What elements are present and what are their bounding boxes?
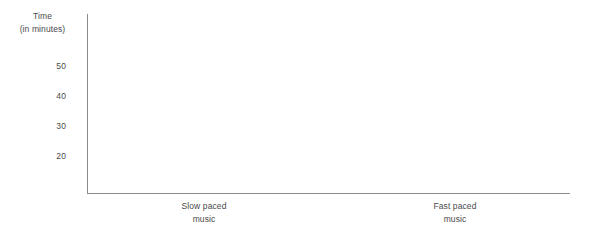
y-tick-label-50: 50 [0, 61, 66, 71]
x-category-label-fast-line-2: music [385, 213, 525, 226]
x-category-label-slow-paced-music: Slow paced music [134, 200, 274, 226]
x-category-label-slow-line-2: music [134, 213, 274, 226]
y-axis-line [87, 14, 88, 194]
x-category-label-fast-paced-music: Fast paced music [385, 200, 525, 226]
y-tick-label-30: 30 [0, 121, 66, 131]
x-category-label-slow-line-1: Slow paced [182, 201, 227, 211]
plot-area [88, 14, 570, 193]
y-axis-tick-labels: 50 40 30 20 [0, 0, 87, 237]
x-axis-line [87, 193, 570, 194]
chart-canvas: Time (in minutes) 50 40 30 20 Slow paced… [0, 0, 597, 237]
x-category-label-fast-line-1: Fast paced [433, 201, 476, 211]
y-tick-label-40: 40 [0, 91, 66, 101]
y-tick-label-20: 20 [0, 151, 66, 161]
